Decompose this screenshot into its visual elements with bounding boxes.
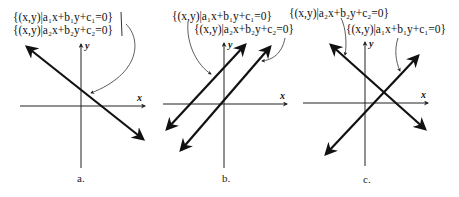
intersecting-line-2 (326, 56, 418, 154)
y-axis-label: y (85, 40, 89, 51)
set-label-line1: {(x,y)|a₂x+b₂y+c₂=0} (289, 8, 389, 20)
pointer-arrow-2 (262, 38, 285, 61)
x-axis-label: x (421, 89, 426, 100)
panel-b-graph (163, 22, 287, 168)
brace-right (121, 12, 122, 36)
coincident-line (27, 47, 143, 139)
caption-c: c. (363, 173, 371, 185)
caption-a: a. (77, 172, 85, 184)
y-axis-label: y (228, 39, 232, 50)
parallel-line-1 (167, 45, 245, 129)
set-label-line1: {(x,y)|a₁x+b₁y+c₁=0} (172, 11, 272, 23)
x-axis-label: x (280, 90, 285, 101)
set-label-line2: {(x,y)|a₂x+b₂y+c₂=0} (13, 25, 113, 37)
caption-b: b. (222, 172, 230, 184)
x-axis-label: x (137, 92, 142, 103)
pointer-arrow-2 (396, 38, 400, 71)
set-label-line2: {(x,y)|a₁x+b₁y+c₁=0} (346, 24, 446, 36)
set-label-line1: {(x,y)|a₁x+b₁y+c₁=0} (13, 12, 113, 24)
intersecting-line-1 (331, 45, 425, 129)
y-axis-label: y (369, 38, 373, 49)
set-label-line2: {(x,y)|a₂x+b₂y+c₂=0} (194, 24, 294, 36)
panel-c-graph (303, 18, 428, 166)
